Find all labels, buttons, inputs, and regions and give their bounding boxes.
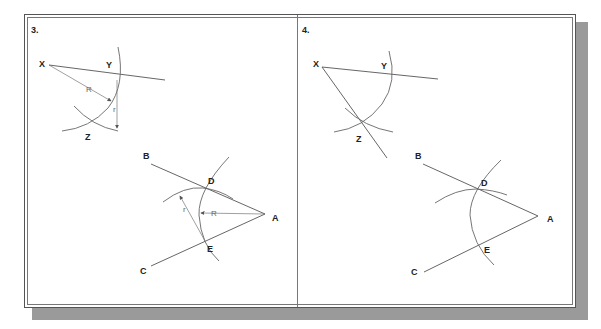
geometry-drawing: 3. X Y Z R r B C D E A R r 4. <box>0 0 601 329</box>
panel-3-number: 3. <box>31 25 39 35</box>
label-z-4: Z <box>356 134 362 144</box>
label-e-4: E <box>484 245 490 255</box>
label-z: Z <box>85 132 91 142</box>
label-b-4: B <box>415 151 422 161</box>
panel-3: 3. X Y Z R r B C D E A R r <box>31 25 279 276</box>
label-radius-small: r <box>183 205 186 214</box>
arc-small-top-4 <box>345 108 393 132</box>
line-ca <box>151 214 265 266</box>
panel-4: 4. X Y Z B C D E A <box>302 25 554 277</box>
label-b: B <box>143 151 150 161</box>
label-x-4: X <box>313 59 319 69</box>
label-c: C <box>140 266 147 276</box>
label-x: X <box>39 59 45 69</box>
panel-4-number: 4. <box>302 25 310 35</box>
line-xz-4 <box>322 67 387 158</box>
label-e: E <box>207 244 213 254</box>
arc-small-angle-4 <box>435 189 507 203</box>
line-xy-4 <box>322 67 438 79</box>
label-a: A <box>272 213 279 223</box>
label-c-4: C <box>411 267 418 277</box>
label-a-4: A <box>547 214 554 224</box>
label-radius-small-top: r <box>113 105 116 114</box>
radius-dimension-big-top <box>49 65 111 101</box>
line-ba-4 <box>423 164 538 216</box>
label-d-4: D <box>481 178 488 188</box>
label-d: D <box>208 176 215 186</box>
label-radius-big-top: R <box>86 85 92 94</box>
radius-dimension-small <box>180 196 205 241</box>
label-y: Y <box>106 60 112 70</box>
label-y-4: Y <box>381 61 387 71</box>
label-radius-big: R <box>211 209 217 218</box>
line-ca-4 <box>424 216 538 272</box>
